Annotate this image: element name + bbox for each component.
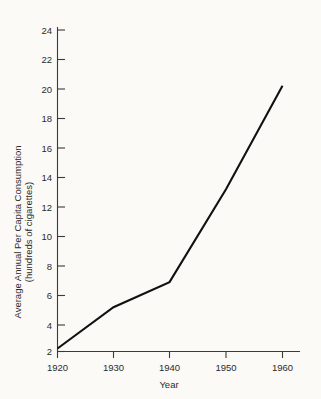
x-tick-label-1930: 1930 (103, 362, 124, 373)
x-axis-title: Year (159, 379, 178, 390)
chart-figure: 24 22 20 18 16 14 12 10 8 6 4 2 1920 193… (0, 0, 321, 399)
y-tick-label-2: 2 (47, 346, 52, 357)
y-tick-label-10: 10 (41, 231, 52, 242)
y-tick-label-20: 20 (41, 84, 52, 95)
y-tick-label-12: 12 (41, 202, 52, 213)
y-tick-label-4: 4 (47, 320, 52, 331)
y-tick-label-24: 24 (41, 25, 52, 36)
x-tick-label-1960: 1960 (272, 362, 293, 373)
x-tick-label-1940: 1940 (159, 362, 180, 373)
y-tick-label-16: 16 (41, 143, 52, 154)
y-tick-label-18: 18 (41, 113, 52, 124)
y-tick-label-14: 14 (41, 172, 52, 183)
y-axis-title-line1: Average Annual Per Capita Consumption (12, 145, 23, 318)
y-tick-label-22: 22 (41, 54, 52, 65)
x-tick-label-1950: 1950 (215, 362, 236, 373)
y-tick-label-8: 8 (47, 261, 52, 272)
y-tick-label-6: 6 (47, 290, 52, 301)
line-chart-svg: 24 22 20 18 16 14 12 10 8 6 4 2 1920 193… (0, 0, 321, 399)
x-tick-label-1920: 1920 (47, 362, 68, 373)
y-axis-title-line2: (hundreds of cigarettes) (23, 182, 34, 282)
